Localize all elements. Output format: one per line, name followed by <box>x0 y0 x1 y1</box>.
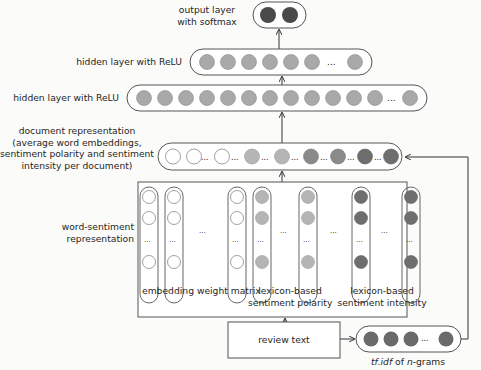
doc-ellipsis: ... <box>347 152 355 164</box>
doc-ellipsis: ... <box>261 152 269 164</box>
column-ellipsis: ... <box>356 235 363 247</box>
hidden-layer-2 <box>190 49 372 75</box>
column-ellipsis: ... <box>232 235 239 247</box>
column-ellipsis: ... <box>406 235 413 247</box>
output-layer-label: output layer with softmax <box>170 4 244 27</box>
sentiment-intensity-label: lexicon-based sentiment intensity <box>337 285 427 308</box>
hidden-layer-1-ellipsis: ... <box>387 92 396 104</box>
document-representation <box>158 143 402 170</box>
column-ellipsis: ... <box>169 235 176 247</box>
document-representation-label: document representation (average word em… <box>0 125 154 171</box>
between-column-ellipsis: ... <box>330 226 337 238</box>
arrow-tfidf-to-doc <box>406 157 468 339</box>
word-sentiment-label: word-sentiment representation <box>30 221 134 244</box>
review-text-label: review text <box>228 334 340 346</box>
column-ellipsis: ... <box>303 235 310 247</box>
doc-ellipsis: ... <box>231 152 239 164</box>
between-column-ellipsis: ... <box>280 226 287 238</box>
doc-ellipsis: ... <box>374 152 382 164</box>
hidden-layer-1 <box>127 85 427 111</box>
output-node <box>282 7 298 23</box>
output-layer <box>253 2 306 28</box>
embedding-weight-matrix-label: embedding weight matrix <box>142 285 261 297</box>
column-ellipsis: ... <box>257 235 264 247</box>
doc-ellipsis: ... <box>291 152 299 164</box>
hidden-layer-2-label: hidden layer with ReLU <box>76 56 182 68</box>
between-column-ellipsis: ... <box>381 226 388 238</box>
doc-ellipsis: ... <box>320 152 328 164</box>
tfidf-ellipsis: ... <box>421 333 429 345</box>
doc-ellipsis: ... <box>201 152 209 164</box>
tfidf-label: tf.idf of n-grams <box>352 356 464 368</box>
output-node <box>260 7 276 23</box>
tfidf-layer <box>356 326 461 352</box>
neural-network-diagram <box>0 0 481 370</box>
between-column-ellipsis: ... <box>199 226 206 238</box>
hidden-layer-2-ellipsis: ... <box>327 56 336 68</box>
sentiment-polarity-label: lexicon-based sentiment polarity <box>248 285 332 308</box>
hidden-layer-1-label: hidden layer with ReLU <box>13 92 119 104</box>
column-ellipsis: ... <box>144 235 151 247</box>
